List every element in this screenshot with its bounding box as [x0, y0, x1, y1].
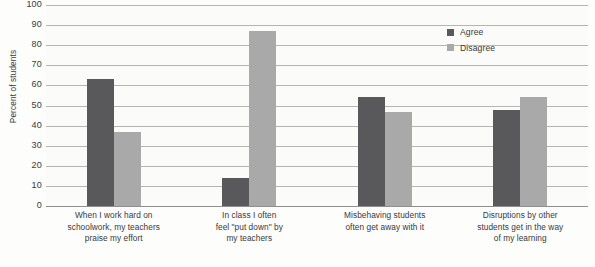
y-tick-label-0: 0 [2, 200, 42, 210]
y-tick-label-20: 20 [2, 160, 42, 170]
x-category-label-line: Misbehaving students [317, 210, 453, 222]
x-category-label-line: my teachers [182, 233, 318, 245]
y-tick-label-90: 90 [2, 19, 42, 29]
bar-group-1 [87, 5, 141, 206]
y-tick-label-30: 30 [2, 140, 42, 150]
x-category-label-3: Misbehaving studentsoften get away with … [317, 210, 453, 233]
legend-label-agree: Agree [460, 28, 483, 37]
x-category-label-line: When I work hard on [46, 210, 182, 222]
y-tick-label-10: 10 [2, 180, 42, 190]
bar-agree-1 [87, 79, 114, 206]
x-category-label-2: In class I oftenfeel "put down" bymy tea… [182, 210, 318, 245]
legend-swatch-icon-agree [447, 29, 454, 36]
bar-disagree-2 [249, 31, 276, 206]
y-tick-label-80: 80 [2, 39, 42, 49]
x-category-label-line: feel "put down" by [182, 222, 318, 234]
x-category-label-1: When I work hard onschoolwork, my teache… [46, 210, 182, 245]
x-category-label-line: schoolwork, my teachers [46, 222, 182, 234]
bar-group-3 [358, 5, 412, 206]
gridline-0 [46, 206, 588, 207]
x-category-label-4: Disruptions by otherstudents get in the … [453, 210, 589, 245]
chart-legend: AgreeDisagree [447, 28, 495, 59]
bar-group-4 [493, 5, 547, 206]
y-tick-label-60: 60 [2, 79, 42, 89]
x-category-label-line: In class I often [182, 210, 318, 222]
bar-disagree-1 [114, 132, 141, 206]
y-tick-label-50: 50 [2, 100, 42, 110]
bar-agree-3 [358, 97, 385, 206]
bar-agree-4 [493, 110, 520, 206]
legend-swatch-icon-disagree [447, 44, 454, 51]
y-tick-label-100: 100 [2, 0, 42, 9]
x-axis-category-labels: When I work hard onschoolwork, my teache… [46, 210, 588, 262]
legend-item-agree[interactable]: Agree [447, 28, 495, 37]
legend-label-disagree: Disagree [460, 44, 495, 53]
x-category-label-line: students get in the way [453, 222, 589, 234]
x-category-label-line: Disruptions by other [453, 210, 589, 222]
bar-chart: Percent of students 10090807060504030201… [0, 0, 595, 267]
x-category-label-line: praise my effort [46, 233, 182, 245]
bar-group-2 [222, 5, 276, 206]
x-category-label-line: often get away with it [317, 222, 453, 234]
bars-layer [46, 5, 588, 206]
x-category-label-line: of my learning [453, 233, 589, 245]
bar-disagree-4 [520, 97, 547, 206]
footnote-text [22, 261, 582, 267]
y-tick-label-40: 40 [2, 120, 42, 130]
legend-item-disagree[interactable]: Disagree [447, 44, 495, 53]
bar-agree-2 [222, 178, 249, 206]
y-tick-label-70: 70 [2, 59, 42, 69]
bar-disagree-3 [385, 112, 412, 206]
